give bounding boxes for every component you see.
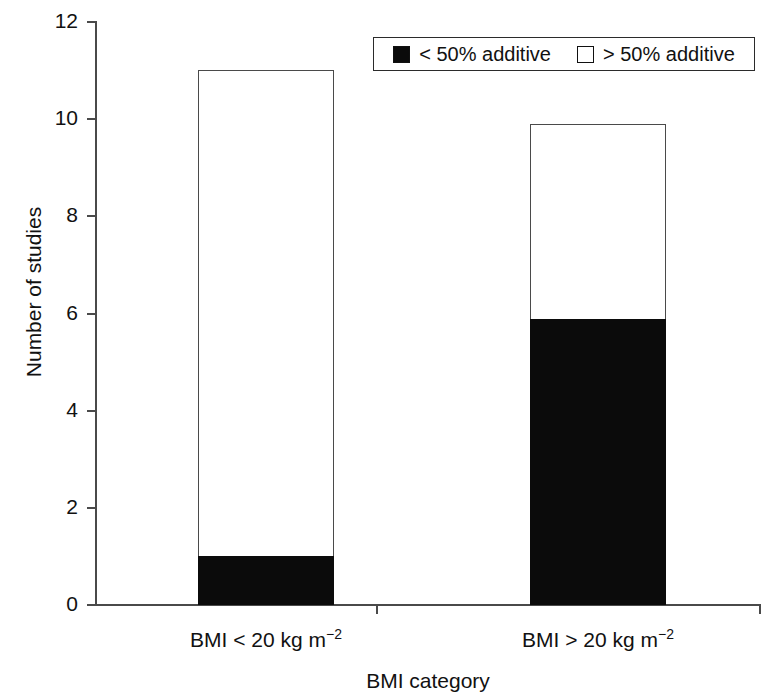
x-category-label-1: BMI < 20 kg m−2 xyxy=(146,628,386,652)
y-tick-2: 2 xyxy=(0,507,96,509)
y-tick-10: 10 xyxy=(0,118,96,120)
y-tick-4: 4 xyxy=(0,410,96,412)
x-category-2-exponent: −2 xyxy=(658,626,674,642)
legend-item-above-50: > 50% additive xyxy=(577,44,735,64)
x-category-label-2: BMI > 20 kg m−2 xyxy=(478,628,718,652)
bar-chart-figure: 12 10 8 6 4 2 0 BMI < 20 kg m−2 BMI > 20… xyxy=(0,0,776,699)
x-category-2-text: BMI > 20 kg m xyxy=(522,628,658,651)
y-tick-label-0: 0 xyxy=(32,593,78,614)
legend-label-above-50: > 50% additive xyxy=(603,44,735,64)
x-tick-middle xyxy=(376,604,378,614)
y-tick-label-10: 10 xyxy=(32,107,78,128)
legend-item-below-50: < 50% additive xyxy=(393,44,551,64)
y-tick-12: 12 xyxy=(0,21,96,23)
y-axis-title: Number of studies xyxy=(22,162,46,422)
y-tick-6: 6 xyxy=(0,313,96,315)
y-tick-0: 0 xyxy=(0,604,96,606)
x-category-1-text: BMI < 20 kg m xyxy=(190,628,326,651)
y-tick-label-2: 2 xyxy=(32,496,78,517)
x-category-1-exponent: −2 xyxy=(326,626,342,642)
bar-2-dark-segment xyxy=(530,319,666,605)
chart-legend: < 50% additive > 50% additive xyxy=(373,37,755,71)
x-tick-right xyxy=(759,604,761,614)
legend-swatch-empty-icon xyxy=(577,46,594,63)
bar-1-light-segment xyxy=(198,70,334,557)
y-tick-label-12: 12 xyxy=(32,10,78,31)
bar-2-light-segment xyxy=(530,124,666,320)
bar-1-dark-segment xyxy=(198,556,334,605)
x-axis-title: BMI category xyxy=(96,669,760,693)
legend-label-below-50: < 50% additive xyxy=(419,44,551,64)
y-tick-8: 8 xyxy=(0,215,96,217)
legend-swatch-filled-icon xyxy=(393,46,410,63)
